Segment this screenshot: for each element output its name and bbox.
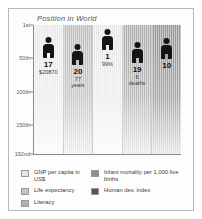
legend-swatch-icon	[21, 170, 29, 177]
person-icon	[131, 42, 144, 63]
legend-item-human-dev-index[interactable]: Human dev. index	[91, 187, 181, 195]
person-icon	[42, 37, 55, 58]
person-head	[104, 29, 110, 35]
person-legs	[106, 45, 109, 50]
plot-area: 1st 50th 100th 150th 192nd 17 $20870	[33, 25, 181, 155]
legend-swatch-icon	[21, 200, 29, 207]
legend-label: Human dev. index	[104, 187, 150, 194]
chart-panel: Position in World 1st 50th 100th 150th 1…	[8, 8, 194, 211]
legend-label: GNP per capita in US$	[34, 169, 91, 183]
bar-literacy[interactable]: 1 99%	[93, 25, 123, 154]
legend-label: Life expectancy	[34, 187, 74, 194]
person-icon	[160, 38, 173, 59]
legend-label: Infant mortality per 1,000 live births	[104, 169, 181, 183]
bars-container: 17 $20870 20 77 years	[33, 25, 181, 155]
chart-legend: GNP per capita in US$ Life expectancy Li…	[9, 169, 193, 211]
legend-label: Literacy	[34, 199, 54, 206]
ytick-label-50th: 50th	[19, 55, 30, 61]
person-icon	[71, 44, 84, 65]
bar-rank-value: 19	[123, 65, 152, 74]
bar-gnp-per-capita[interactable]: 17 $20870	[34, 25, 64, 154]
ytick-label-150th: 150th	[16, 122, 30, 128]
bar-rank-value: 20	[64, 67, 93, 76]
person-head	[164, 38, 170, 44]
legend-column-left: GNP per capita in US$ Life expectancy Li…	[21, 169, 91, 211]
bar-detail-line2: deaths	[123, 80, 152, 87]
person-legs	[47, 53, 50, 58]
bar-rank-value: 1	[93, 52, 122, 61]
person-legs	[165, 54, 168, 59]
legend-swatch-icon	[91, 188, 99, 195]
legend-item-life-expectancy[interactable]: Life expectancy	[21, 187, 91, 195]
bar-detail-line1: 99%	[93, 61, 122, 68]
person-head	[45, 37, 51, 43]
person-head	[134, 42, 140, 48]
person-icon	[101, 29, 114, 50]
bar-detail-line2: years	[64, 82, 93, 89]
person-head	[75, 44, 81, 50]
person-legs	[76, 60, 79, 65]
legend-item-gnp[interactable]: GNP per capita in US$	[21, 169, 91, 183]
legend-item-literacy[interactable]: Literacy	[21, 199, 91, 207]
person-legs	[136, 58, 139, 63]
legend-column-right: Infant mortality per 1,000 live births H…	[91, 169, 181, 211]
bar-rank-value: 10	[152, 61, 181, 70]
bar-rank-value: 17	[34, 60, 63, 69]
bar-life-expectancy[interactable]: 20 77 years	[64, 25, 94, 154]
ytick-label-100th: 100th	[16, 89, 30, 95]
bar-human-dev-index[interactable]: 10	[152, 25, 181, 154]
legend-swatch-icon	[21, 188, 29, 195]
bar-infant-mortality[interactable]: 19 6 deaths	[123, 25, 153, 154]
ytick-label-1st: 1st	[23, 22, 30, 28]
legend-swatch-icon	[91, 170, 99, 177]
bar-detail-line1: $20870	[34, 69, 63, 76]
chart-title: Position in World	[37, 14, 97, 23]
ytick-label-192nd: 192nd	[15, 151, 30, 157]
legend-item-infant-mortality[interactable]: Infant mortality per 1,000 live births	[91, 169, 181, 183]
